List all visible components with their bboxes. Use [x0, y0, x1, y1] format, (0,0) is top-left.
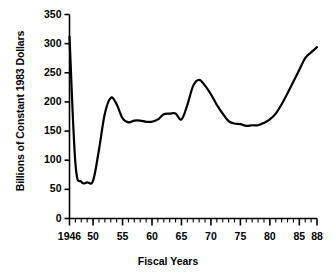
- axes: [70, 15, 318, 219]
- x-tick-label: 88: [302, 230, 332, 242]
- y-tick-label: 0: [32, 212, 62, 224]
- series-line: [70, 37, 318, 184]
- x-tick-label: 70: [196, 230, 226, 242]
- y-tick-label: 350: [32, 8, 62, 20]
- x-tick-label: 80: [255, 230, 285, 242]
- y-tick-label: 250: [32, 66, 62, 78]
- y-tick-label: 150: [32, 124, 62, 136]
- x-tick-label: 50: [78, 230, 108, 242]
- y-tick-label: 50: [32, 182, 62, 194]
- x-tick-label: 75: [225, 230, 255, 242]
- x-tick-label: 60: [137, 230, 167, 242]
- y-tick-label: 100: [32, 153, 62, 165]
- y-tick-label: 300: [32, 37, 62, 49]
- chart-container: Billions of Constant 1983 Dollars Fiscal…: [0, 0, 336, 277]
- axis-ticks: [65, 15, 318, 226]
- data-series: [70, 37, 318, 184]
- x-tick-label: 55: [108, 230, 138, 242]
- y-tick-label: 200: [32, 95, 62, 107]
- x-tick-label: 65: [166, 230, 196, 242]
